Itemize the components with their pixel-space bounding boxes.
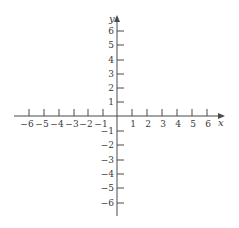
- y-axis-label: y: [108, 13, 115, 24]
- x-tick-label: 1: [130, 119, 136, 129]
- y-tick-label: −3: [101, 155, 115, 165]
- y-tick-label: −2: [101, 140, 114, 150]
- x-tick-label: 5: [190, 119, 196, 129]
- y-axis-arrow-icon: [114, 15, 120, 22]
- y-tick-label: 4: [108, 55, 114, 65]
- x-tick-label: −3: [65, 119, 79, 129]
- x-tick-label: 6: [205, 119, 211, 129]
- coordinate-plane: y x −6 −5 −4 −3 −2 −1 1 2 3 4 5 6 6 5 4 …: [0, 0, 239, 228]
- y-tick-labels: 6 5 4 3 2 1 −1 −2 −3 −4 −5 −6: [101, 26, 115, 208]
- y-tick-label: −4: [101, 169, 115, 179]
- x-axis-ticks: [29, 109, 207, 116]
- y-tick-label: 2: [108, 83, 114, 93]
- y-tick-label: 3: [108, 69, 114, 79]
- y-tick-label: −6: [101, 198, 115, 208]
- x-tick-label: −6: [20, 119, 34, 129]
- x-tick-label: 4: [175, 119, 181, 129]
- x-tick-labels: −6 −5 −4 −3 −2 −1 1 2 3 4 5 6: [20, 119, 211, 129]
- y-tick-label: −1: [101, 126, 114, 136]
- y-tick-label: 6: [108, 26, 114, 36]
- y-tick-label: −5: [101, 183, 115, 193]
- y-axis-ticks: [117, 31, 124, 203]
- x-axis-label: x: [218, 117, 224, 128]
- x-tick-label: −2: [79, 119, 92, 129]
- x-tick-label: −4: [50, 119, 64, 129]
- y-tick-label: 1: [108, 97, 114, 107]
- x-tick-label: 2: [145, 119, 151, 129]
- x-tick-label: 3: [160, 119, 166, 129]
- x-tick-label: −5: [35, 119, 49, 129]
- y-tick-label: 5: [108, 40, 114, 50]
